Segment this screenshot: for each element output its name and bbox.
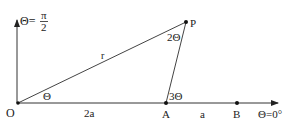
point-o [16, 101, 20, 105]
point-a [164, 101, 168, 105]
segment-label-2a: 2a [84, 107, 95, 119]
point-b [235, 101, 239, 105]
segment-label-r: r [101, 50, 105, 61]
angle-label-a: 3Θ [169, 90, 183, 102]
segment-label-a: a [200, 108, 205, 120]
angle-label-o: Θ [43, 90, 51, 102]
point-label-p: P [190, 17, 196, 29]
vertical-axis-label-pi: π [41, 9, 47, 21]
horizontal-axis-label: Θ=0° [258, 108, 282, 120]
point-label-o: O [6, 106, 15, 120]
point-p [184, 20, 188, 24]
vertical-axis-label-theta: Θ= [20, 14, 36, 28]
geometry-diagram: Θ= π 2 O A B P r 2a a Θ 2Θ 3Θ Θ=0° [0, 0, 291, 128]
point-label-a: A [162, 108, 170, 120]
point-label-b: B [233, 108, 240, 120]
angle-label-p: 2Θ [167, 31, 181, 43]
vertical-axis-label-2: 2 [41, 21, 47, 33]
